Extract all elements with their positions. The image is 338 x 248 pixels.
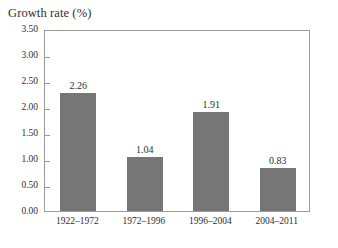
bar: [127, 157, 163, 211]
y-tick-label: 1.50: [2, 129, 38, 139]
y-tick-mark: [45, 135, 50, 136]
y-tick-mark: [45, 57, 50, 58]
y-tick-label: 0.50: [2, 181, 38, 191]
y-tick-label: 1.00: [2, 155, 38, 165]
plot-area: 2.261.041.910.83: [44, 30, 310, 212]
bar-value-label: 1.91: [181, 100, 241, 110]
bar-value-label: 0.83: [248, 156, 308, 166]
bar: [260, 168, 296, 211]
bar-value-label: 2.26: [48, 81, 108, 91]
y-tick-label: 2.50: [2, 77, 38, 87]
y-tick-label: 0.00: [2, 207, 38, 217]
y-tick-mark: [45, 187, 50, 188]
y-tick-label: 3.50: [2, 25, 38, 35]
chart-figure: Growth rate (%) 3.503.002.502.001.501.00…: [0, 0, 338, 248]
y-tick-label: 2.00: [2, 103, 38, 113]
bar: [193, 112, 229, 211]
bar: [60, 93, 96, 211]
x-tick-label: 2004–2011: [237, 216, 317, 227]
bar-value-label: 1.04: [115, 145, 175, 155]
y-tick-label: 3.00: [2, 51, 38, 61]
y-tick-mark: [45, 161, 50, 162]
x-axis: 1922–19721972–19961996–20042004–2011: [44, 216, 310, 236]
y-tick-mark: [45, 109, 50, 110]
y-axis: 3.503.002.502.001.501.000.500.00: [0, 0, 42, 248]
